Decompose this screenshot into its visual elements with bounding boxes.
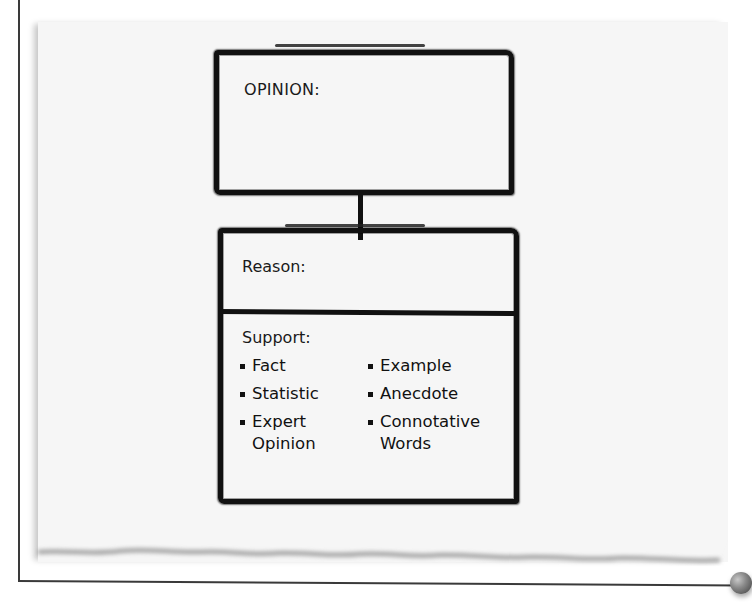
- opinion-box: [214, 50, 514, 195]
- torn-paper-edge: [30, 540, 730, 576]
- support-list-right: Example Anecdote Connotative Words: [368, 353, 518, 459]
- bullet-icon: [240, 364, 245, 369]
- frame-bottom-line: [18, 580, 740, 586]
- reason-label: Reason:: [242, 257, 306, 276]
- support-item-label: Expert Opinion: [252, 409, 332, 459]
- bullet-icon: [368, 392, 373, 397]
- bullet-icon: [240, 392, 245, 397]
- frame-left-line: [18, 0, 20, 582]
- support-item-label: Fact: [252, 353, 286, 381]
- support-item-expert-opinion: Expert Opinion: [240, 409, 360, 459]
- support-item-anecdote: Anecdote: [368, 381, 518, 409]
- bullet-icon: [368, 420, 373, 425]
- opinion-box-sketch-accent: [275, 44, 425, 47]
- support-item-label: Anecdote: [380, 381, 458, 409]
- bullet-icon: [368, 364, 373, 369]
- pin-ball: [730, 572, 752, 594]
- support-label: Support:: [242, 328, 311, 347]
- support-list-left: Fact Statistic Expert Opinion: [240, 353, 360, 459]
- reason-box-sketch-accent: [285, 224, 425, 227]
- support-item-connotative-words: Connotative Words: [368, 409, 518, 459]
- support-item-example: Example: [368, 353, 518, 381]
- support-item-label: Example: [380, 353, 452, 381]
- support-item-label: Connotative Words: [380, 409, 500, 459]
- support-item-statistic: Statistic: [240, 381, 360, 409]
- bullet-icon: [240, 420, 245, 425]
- support-item-label: Statistic: [252, 381, 319, 409]
- opinion-label: OPINION:: [244, 80, 320, 99]
- support-item-fact: Fact: [240, 353, 360, 381]
